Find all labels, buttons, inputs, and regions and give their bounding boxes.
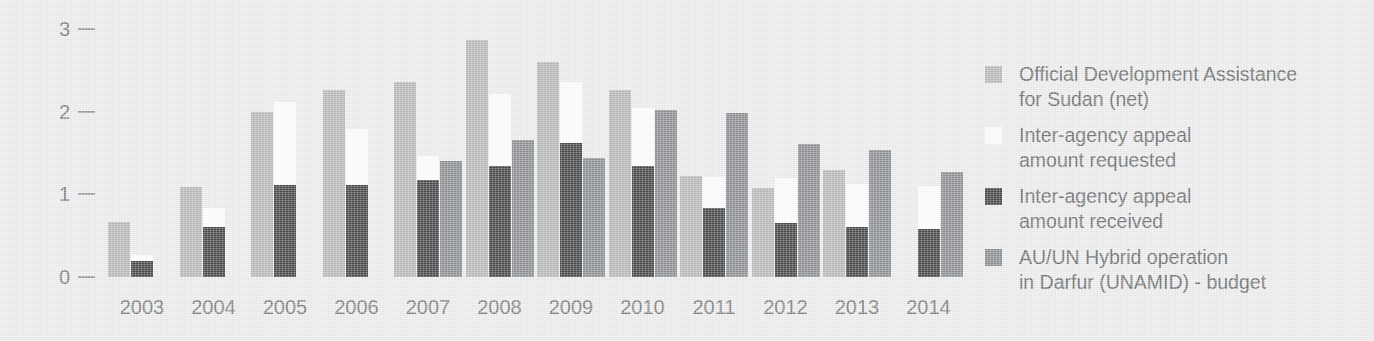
legend-item[interactable]: Official Development Assistance for Suda… bbox=[985, 62, 1365, 112]
bar-appeal-received[interactable] bbox=[489, 166, 511, 277]
y-axis-tick-label: 1 bbox=[59, 184, 70, 204]
bar-oda[interactable] bbox=[394, 82, 416, 277]
bar-group: 2014 bbox=[895, 0, 963, 277]
legend-item[interactable]: Inter-agency appeal amount received bbox=[985, 184, 1365, 234]
bar-appeal-received[interactable] bbox=[346, 185, 368, 278]
bar-group: 2009 bbox=[537, 0, 605, 277]
legend-item[interactable]: AU/UN Hybrid operation in Darfur (UNAMID… bbox=[985, 245, 1365, 295]
bar-appeal-received[interactable] bbox=[846, 227, 868, 277]
chart-legend: Official Development Assistance for Suda… bbox=[985, 62, 1365, 306]
bar-unamid[interactable] bbox=[798, 144, 820, 277]
x-axis-label: 2013 bbox=[823, 296, 891, 319]
legend-item-label: AU/UN Hybrid operation in Darfur (UNAMID… bbox=[1019, 245, 1266, 295]
legend-item[interactable]: Inter-agency appeal amount requested bbox=[985, 123, 1365, 173]
bar-appeal-received[interactable] bbox=[274, 185, 296, 278]
y-axis-tick-label: 0 bbox=[59, 267, 70, 287]
legend-swatch-received bbox=[985, 188, 1002, 205]
bar-appeal-received[interactable] bbox=[417, 180, 439, 277]
x-axis-label: 2003 bbox=[108, 296, 176, 319]
y-axis-tick: 2 bbox=[0, 102, 100, 122]
bar-unamid[interactable] bbox=[512, 140, 534, 277]
y-axis-tick-mark bbox=[78, 111, 95, 113]
bar-oda[interactable] bbox=[108, 222, 130, 277]
legend-swatch-unamid bbox=[985, 249, 1002, 266]
legend-item-label: Inter-agency appeal amount requested bbox=[1019, 123, 1191, 173]
bar-unamid[interactable] bbox=[869, 150, 891, 277]
x-axis-label: 2004 bbox=[180, 296, 248, 319]
x-axis-label: 2008 bbox=[466, 296, 534, 319]
bar-unamid[interactable] bbox=[583, 158, 605, 277]
bar-unamid[interactable] bbox=[941, 172, 963, 277]
bar-group: 2012 bbox=[752, 0, 820, 277]
y-axis-tick: 1 bbox=[0, 184, 100, 204]
bar-group: 2005 bbox=[251, 0, 319, 277]
bar-chart: 3210 20032004200520062007200820092010201… bbox=[0, 0, 1374, 341]
bar-unamid[interactable] bbox=[726, 113, 748, 277]
x-axis-label: 2014 bbox=[895, 296, 963, 319]
legend-item-label: Inter-agency appeal amount received bbox=[1019, 184, 1191, 234]
legend-swatch-oda bbox=[985, 66, 1002, 83]
x-axis-label: 2012 bbox=[752, 296, 820, 319]
bar-oda[interactable] bbox=[823, 170, 845, 277]
bar-appeal-received[interactable] bbox=[131, 261, 153, 277]
bar-group: 2011 bbox=[680, 0, 748, 277]
plot-area: 2003200420052006200720082009201020112012… bbox=[100, 0, 960, 341]
bar-appeal-received[interactable] bbox=[703, 208, 725, 277]
y-axis-tick-mark bbox=[78, 193, 95, 195]
x-axis-label: 2005 bbox=[251, 296, 319, 319]
bar-appeal-received[interactable] bbox=[560, 143, 582, 277]
bar-group: 2008 bbox=[466, 0, 534, 277]
y-axis-tick: 0 bbox=[0, 267, 100, 287]
bar-group: 2010 bbox=[609, 0, 677, 277]
bar-appeal-received[interactable] bbox=[918, 229, 940, 277]
bar-oda[interactable] bbox=[323, 90, 345, 278]
x-axis-label: 2006 bbox=[323, 296, 391, 319]
y-axis-tick: 3 bbox=[0, 19, 100, 39]
x-axis-label: 2009 bbox=[537, 296, 605, 319]
bar-group: 2013 bbox=[823, 0, 891, 277]
bar-group: 2006 bbox=[323, 0, 391, 277]
y-axis-tick-label: 3 bbox=[59, 19, 70, 39]
bar-appeal-received[interactable] bbox=[203, 227, 225, 277]
bar-group: 2004 bbox=[180, 0, 248, 277]
legend-item-label: Official Development Assistance for Suda… bbox=[1019, 62, 1297, 112]
bar-oda[interactable] bbox=[466, 40, 488, 277]
bar-unamid[interactable] bbox=[655, 110, 677, 277]
x-axis-label: 2007 bbox=[394, 296, 462, 319]
bar-oda[interactable] bbox=[680, 176, 702, 277]
y-axis-tick-mark bbox=[78, 28, 95, 30]
bar-oda[interactable] bbox=[537, 62, 559, 277]
x-axis-label: 2011 bbox=[680, 296, 748, 319]
bar-oda[interactable] bbox=[752, 188, 774, 277]
bar-oda[interactable] bbox=[180, 187, 202, 277]
bar-group: 2007 bbox=[394, 0, 462, 277]
bar-appeal-received[interactable] bbox=[632, 166, 654, 277]
bar-unamid[interactable] bbox=[440, 161, 462, 277]
x-axis-label: 2010 bbox=[609, 296, 677, 319]
y-axis-tick-label: 2 bbox=[59, 102, 70, 122]
y-axis-tick-mark bbox=[78, 276, 95, 278]
bar-appeal-received[interactable] bbox=[775, 223, 797, 277]
bar-oda[interactable] bbox=[609, 90, 631, 278]
y-axis: 3210 bbox=[0, 0, 100, 341]
legend-swatch-requested bbox=[985, 127, 1002, 144]
bar-oda[interactable] bbox=[251, 112, 273, 277]
bar-group: 2003 bbox=[108, 0, 176, 277]
